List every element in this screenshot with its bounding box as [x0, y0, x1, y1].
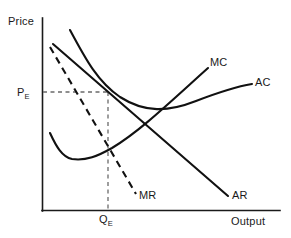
ar-curve	[53, 44, 228, 196]
ac-curve	[70, 30, 252, 109]
ar-curve-label: AR	[232, 190, 248, 201]
mc-curve	[50, 68, 208, 159]
mc-curve-label: MC	[210, 57, 228, 68]
diagram-canvas	[0, 0, 291, 238]
economics-diagram-figure: Price Output PE QE MC AC AR MR	[0, 0, 291, 238]
equilibrium-quantity-symbol: Q	[99, 213, 108, 225]
ac-curve-label: AC	[255, 77, 271, 88]
x-axis-label: Output	[231, 216, 265, 227]
equilibrium-price-label: PE	[17, 87, 30, 101]
equilibrium-quantity-subscript: E	[108, 219, 113, 228]
y-axis-label: Price	[8, 16, 34, 27]
mr-curve-label: MR	[139, 190, 157, 201]
equilibrium-quantity-label: QE	[99, 214, 113, 228]
equilibrium-price-symbol: P	[17, 86, 25, 98]
equilibrium-price-subscript: E	[25, 92, 30, 101]
